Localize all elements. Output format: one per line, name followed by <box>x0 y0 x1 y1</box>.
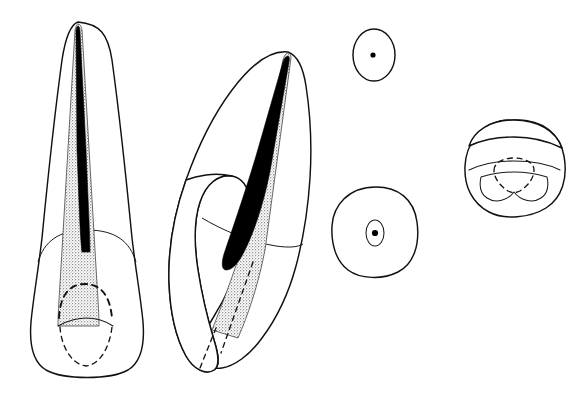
figure-canvas <box>0 0 583 396</box>
root-cross-section-canal-dot <box>370 52 375 57</box>
incisal-view-view <box>465 120 565 217</box>
root-cross-section-view <box>353 29 395 81</box>
tooth-anatomy-figure: Maxillary central incisor — sectional an… <box>0 0 583 396</box>
cervical-cross-section-view <box>332 187 418 277</box>
cervical-cross-section-canal-dot <box>372 230 378 236</box>
